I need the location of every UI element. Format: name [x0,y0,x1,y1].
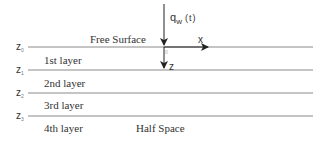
interface-label-z3: z3 [16,111,24,122]
layer-label-2: 2nd layer [44,78,85,89]
interface-label-z0: z0 [16,42,24,53]
layer-label-4: 4th layer [44,123,83,134]
layered-half-space-diagram: qw (t) x z 0 Free Surface z0 z1 z2 z3 1s… [0,0,326,144]
z-axis-label: z [169,62,174,72]
interface-label-z1: z1 [16,65,24,76]
load-argument: (t) [185,13,197,23]
layer-label-1: 1st layer [44,55,82,66]
origin-label: 0 [165,50,168,55]
interface-label-z2: z2 [16,88,24,99]
load-label: qw (t) [170,12,196,26]
free-surface-label: Free Surface [90,34,146,45]
x-axis-label: x [198,35,203,45]
layer-label-3: 3rd layer [44,100,83,111]
load-subscript: w [176,17,182,26]
half-space-label: Half Space [136,123,185,134]
